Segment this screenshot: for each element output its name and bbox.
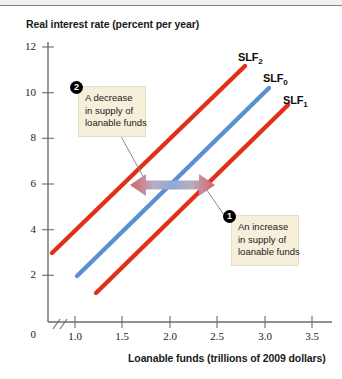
y-tick-label-8: 8 <box>14 131 36 143</box>
x-tick-label-3.5: 3.5 <box>297 330 327 342</box>
x-tick-label-3.0: 3.0 <box>250 330 280 342</box>
plot-area <box>0 0 342 379</box>
axis-break-slash-2 <box>60 319 67 329</box>
y-tick-label-2: 2 <box>14 268 36 280</box>
callout-increase-line-2: in supply of <box>238 234 292 247</box>
curve-label-slf0: SLF0 <box>263 72 287 87</box>
curve-label-slf1-text: SLF <box>283 94 303 106</box>
callout-increase-line-3: loanable funds <box>238 246 292 259</box>
curve-label-slf1: SLF1 <box>283 94 307 109</box>
economics-figure: Real interest rate (percent per year) Lo… <box>0 0 342 379</box>
decrease-arrow <box>130 174 173 196</box>
x-tick-label-2.0: 2.0 <box>155 330 185 342</box>
curve-label-slf2-sub: 2 <box>258 57 262 66</box>
y-tick-label-12: 12 <box>14 40 36 52</box>
callout-2-leader-line <box>118 131 145 180</box>
callout-increase: An increase in supply of loanable funds <box>231 215 299 266</box>
callout-decrease: A decrease in supply of loanable funds <box>78 86 146 137</box>
curve-label-slf2: SLF2 <box>238 51 262 66</box>
callout-decrease-line-2: in supply of <box>85 105 139 118</box>
y-tick-label-4: 4 <box>14 223 36 235</box>
x-tick-label-1.0: 1.0 <box>60 330 90 342</box>
x-tick-label-2.5: 2.5 <box>202 330 232 342</box>
y-tick-label-10: 10 <box>14 86 36 98</box>
y-tick-label-0: 0 <box>14 328 36 340</box>
curve-label-slf2-text: SLF <box>238 51 258 63</box>
y-tick-label-6: 6 <box>14 177 36 189</box>
x-tick-label-1.5: 1.5 <box>107 330 137 342</box>
callout-increase-line-1: An increase <box>238 221 292 234</box>
curve-label-slf0-sub: 0 <box>283 78 287 87</box>
callout-decrease-line-1: A decrease <box>85 92 139 105</box>
curve-label-slf1-sub: 1 <box>303 100 307 109</box>
callout-decrease-line-3: loanable funds <box>85 117 139 130</box>
callout-decrease-badge: 2 <box>70 81 83 94</box>
curve-label-slf0-text: SLF <box>263 72 283 84</box>
callout-increase-badge: 1 <box>223 210 236 223</box>
axis-break-slash-1 <box>53 319 60 329</box>
